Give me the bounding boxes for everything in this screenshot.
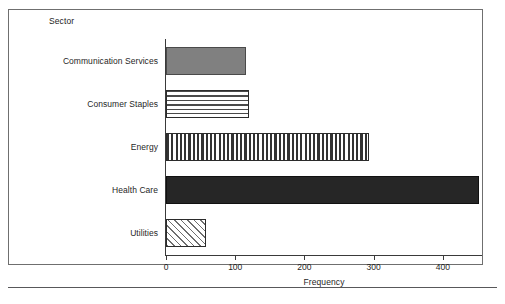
bar-communication-services (166, 47, 246, 75)
category-label-health-care: Health Care (112, 185, 158, 195)
y-axis-title: Sector (49, 16, 74, 26)
bar-row-energy: Energy (166, 125, 481, 168)
plot-area: Communication Services Consumer Staples … (166, 39, 481, 255)
x-tick-label-0: 0 (164, 262, 169, 272)
x-tick-label-300: 300 (367, 262, 381, 272)
x-axis-spine (166, 255, 482, 256)
figure-frame: Sector Communication Services Consumer S… (8, 9, 483, 265)
x-axis-title: Frequency (166, 277, 482, 287)
category-label-communication-services: Communication Services (63, 56, 158, 66)
bar-row-health-care: Health Care (166, 169, 481, 212)
category-label-energy: Energy (131, 142, 158, 152)
x-tick-label-200: 200 (297, 262, 311, 272)
bar-energy (166, 133, 369, 161)
x-tick-100 (235, 256, 236, 260)
x-tick-400 (443, 256, 444, 260)
x-tick-200 (304, 256, 305, 260)
bar-health-care (166, 176, 479, 204)
category-label-utilities: Utilities (130, 228, 158, 238)
x-tick-0 (166, 256, 167, 260)
x-tick-300 (374, 256, 375, 260)
x-tick-label-100: 100 (228, 262, 242, 272)
page-rule (8, 287, 497, 288)
bar-row-communication-services: Communication Services (166, 39, 481, 82)
x-tick-label-400: 400 (436, 262, 450, 272)
bar-row-consumer-staples: Consumer Staples (166, 82, 481, 125)
bar-utilities (166, 219, 206, 247)
bar-consumer-staples (166, 90, 249, 118)
bar-row-utilities: Utilities (166, 212, 481, 255)
category-label-consumer-staples: Consumer Staples (87, 99, 158, 109)
